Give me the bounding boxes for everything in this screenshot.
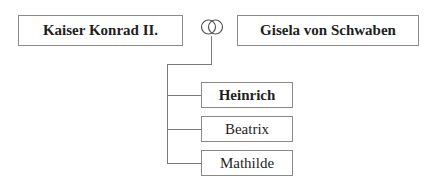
parent-box-mother: Gisela von Schwaben bbox=[237, 15, 419, 46]
connector-horizontal bbox=[167, 64, 212, 65]
wedding-rings-icon bbox=[199, 17, 225, 37]
father-name: Kaiser Konrad II. bbox=[43, 22, 158, 39]
parent-box-father: Kaiser Konrad II. bbox=[18, 15, 183, 46]
connector-branch-mathilde bbox=[167, 163, 201, 164]
mother-name: Gisela von Schwaben bbox=[260, 22, 396, 39]
child-name: Mathilde bbox=[220, 155, 274, 172]
connector-marriage-down bbox=[211, 36, 212, 65]
connector-branch-heinrich bbox=[167, 95, 201, 96]
child-box-beatrix: Beatrix bbox=[201, 116, 293, 142]
child-box-heinrich: Heinrich bbox=[201, 82, 293, 108]
connector-branch-beatrix bbox=[167, 129, 201, 130]
child-name: Beatrix bbox=[225, 121, 269, 138]
child-box-mathilde: Mathilde bbox=[201, 150, 293, 176]
connector-children-trunk bbox=[167, 64, 168, 164]
child-name: Heinrich bbox=[219, 87, 276, 104]
